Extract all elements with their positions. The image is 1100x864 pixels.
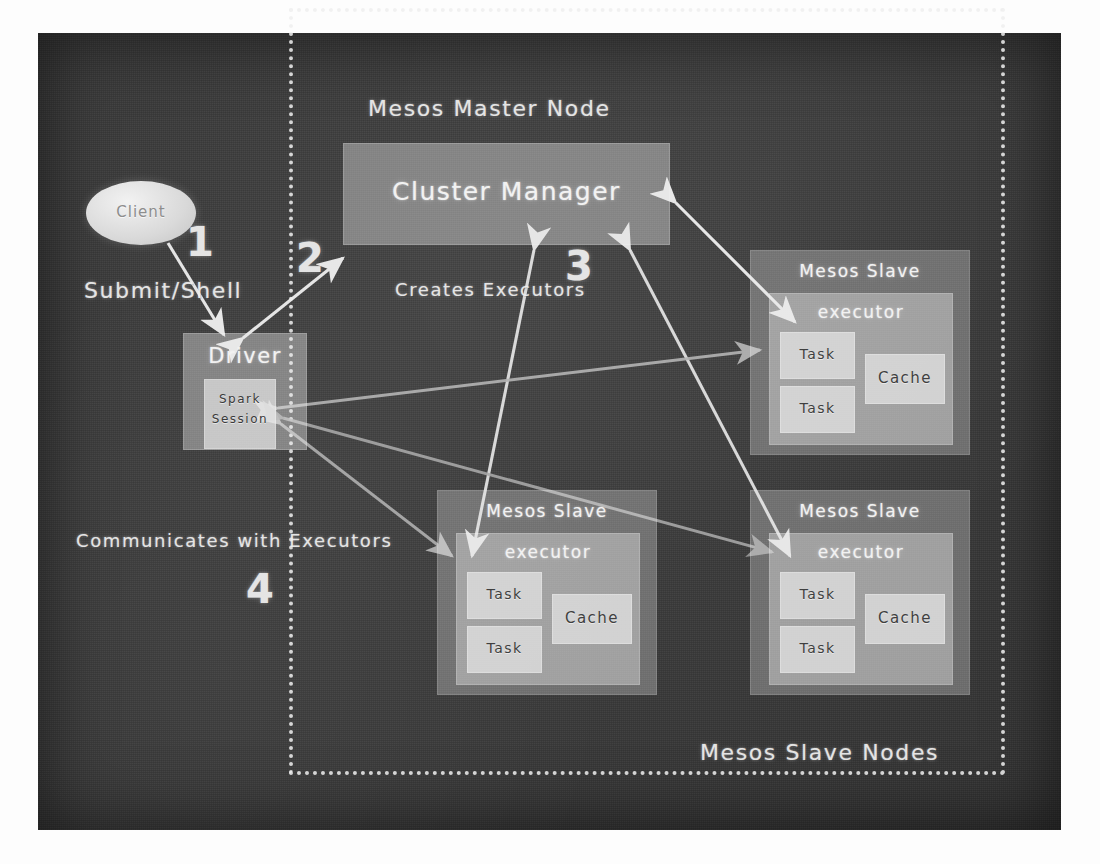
executor-box[interactable]: executor Task Task Cache — [769, 293, 953, 445]
task-label: Task — [468, 640, 541, 656]
task-box[interactable]: Task — [780, 572, 855, 619]
task-label: Task — [468, 586, 541, 602]
mesos-slave-node-top-right[interactable]: Mesos Slave executor Task Task Cache — [750, 250, 970, 455]
cluster-manager-label: Cluster Manager — [344, 177, 669, 206]
task-box[interactable]: Task — [780, 332, 855, 379]
executor-label: executor — [770, 542, 952, 562]
task-box[interactable]: Task — [467, 572, 542, 619]
cache-label: Cache — [866, 369, 944, 387]
spark-session-label-line1: Spark — [205, 392, 275, 406]
executor-box[interactable]: executor Task Task Cache — [769, 533, 953, 685]
executor-label: executor — [457, 542, 639, 562]
spark-session-box[interactable]: Spark Session — [204, 379, 276, 449]
cache-box[interactable]: Cache — [552, 594, 632, 644]
cache-label: Cache — [553, 609, 631, 627]
step-1-label: Submit/Shell — [84, 278, 242, 303]
step-4-label: Communicates with Executors — [76, 530, 392, 551]
driver-node[interactable]: Driver Spark Session — [183, 333, 307, 450]
mesos-slave-title: Mesos Slave — [438, 501, 656, 521]
task-label: Task — [781, 586, 854, 602]
step-2-number: 2 — [296, 235, 324, 281]
cluster-manager-node[interactable]: Cluster Manager — [343, 143, 670, 245]
driver-label: Driver — [184, 344, 306, 368]
mesos-slave-title: Mesos Slave — [751, 261, 969, 281]
cache-label: Cache — [866, 609, 944, 627]
cache-box[interactable]: Cache — [865, 354, 945, 404]
executor-label: executor — [770, 302, 952, 322]
executor-box[interactable]: executor Task Task Cache — [456, 533, 640, 685]
client-node[interactable]: Client — [86, 181, 196, 245]
mesos-slave-node-bottom-right[interactable]: Mesos Slave executor Task Task Cache — [750, 490, 970, 695]
mesos-slave-node-bottom-left[interactable]: Mesos Slave executor Task Task Cache — [437, 490, 657, 695]
client-label: Client — [86, 203, 196, 221]
cache-box[interactable]: Cache — [865, 594, 945, 644]
diagram-canvas: Mesos Master Node Mesos Slave Nodes Clie… — [0, 0, 1100, 864]
step-4-number: 4 — [246, 566, 274, 612]
step-3-label: Creates Executors — [395, 279, 586, 300]
step-1-number: 1 — [186, 219, 214, 265]
task-box[interactable]: Task — [467, 626, 542, 673]
mesos-slave-nodes-label: Mesos Slave Nodes — [700, 740, 939, 765]
task-box[interactable]: Task — [780, 626, 855, 673]
mesos-master-node-label: Mesos Master Node — [368, 96, 611, 121]
mesos-slave-title: Mesos Slave — [751, 501, 969, 521]
task-label: Task — [781, 346, 854, 362]
spark-session-label-line2: Session — [205, 412, 275, 426]
task-box[interactable]: Task — [780, 386, 855, 433]
task-label: Task — [781, 640, 854, 656]
task-label: Task — [781, 400, 854, 416]
